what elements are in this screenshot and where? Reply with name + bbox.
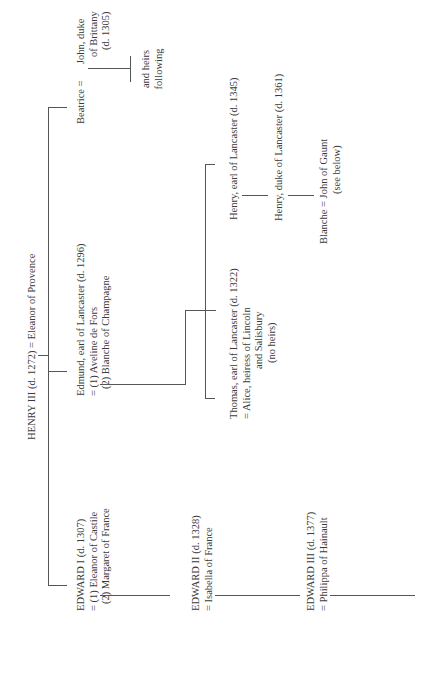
person-edmund: Edmund, earl of Lancaster (d. 1296) = (1… — [75, 244, 113, 397]
person-edward-ii: EDWARD II (d. 1328) = Isabella of France — [190, 515, 215, 611]
thomas-spouse-line-1: = Alice, heiress of Lincoln — [241, 268, 254, 419]
john-brittany-line-3: (d. 1305) — [100, 11, 113, 64]
edmund-descent-line — [100, 384, 185, 385]
blanche-note: (see below) — [331, 139, 344, 244]
henry-duke-name: Henry, duke of Lancaster (d. 1361) — [273, 74, 286, 221]
john-brittany-line-2: of Brittany — [88, 11, 101, 64]
drop-thomas — [205, 398, 215, 399]
beatrice-heirs-note: and heirs following — [140, 39, 165, 99]
person-beatrice: Beatrice = — [75, 80, 88, 124]
edward-i-name: EDWARD I (d. 1307) — [75, 508, 88, 611]
thomas-spouse-line-2: and Salisbury — [253, 268, 266, 419]
edward-ii-spouse: = Isabella of France — [203, 515, 216, 611]
person-blanche: Blanche = John of Gaunt (see below) — [318, 139, 343, 244]
thomas-spouse-line-3: (no heirs) — [266, 268, 279, 419]
person-john-duke-of-brittany: John, duke of Brittany (d. 1305) — [75, 11, 113, 64]
edmund-to-children-line — [185, 311, 186, 385]
edmund-name: Edmund, earl of Lancaster (d. 1296) — [75, 244, 88, 397]
edward-i-descent-line — [100, 595, 170, 596]
thomas-henry-sibling-bar — [205, 164, 206, 399]
henry-duke-descent-line — [288, 195, 314, 196]
drop-henry-earl — [205, 164, 215, 165]
root-henry-iii: HENRY III (d. 1272) = Eleanor of Provenc… — [26, 254, 39, 440]
root-drop-line — [38, 355, 48, 356]
henry-earl-name: Henry, earl of Lancaster (d. 1345) — [228, 78, 241, 220]
children-sibling-bar — [48, 107, 49, 586]
edmund-spouse-2: (2) Blanche of Champagne — [100, 244, 113, 397]
edward-iii-descent-line — [330, 595, 415, 596]
drop-beatrice — [48, 107, 67, 108]
edward-ii-descent-line — [215, 595, 300, 596]
person-thomas: Thomas, earl of Lancaster (d. 1322) = Al… — [228, 268, 278, 419]
heirs-line-2: following — [153, 39, 166, 99]
edward-ii-name: EDWARD II (d. 1328) — [190, 515, 203, 611]
root-spouse: = Eleanor of Provence — [26, 254, 37, 348]
edward-i-spouse-1: = (1) Eleanor of Castile — [88, 508, 101, 611]
henry-earl-descent-line — [242, 195, 268, 196]
beatrice-marriage-sign: = — [75, 80, 86, 86]
edmund-children-stem — [185, 310, 216, 311]
john-brittany-line-1: John, duke — [75, 11, 88, 64]
person-henry-earl: Henry, earl of Lancaster (d. 1345) — [228, 78, 241, 220]
person-edward-iii: EDWARD III (d. 1377) = Philippa of Haina… — [305, 512, 330, 611]
drop-edward-i — [48, 585, 67, 586]
beatrice-name: Beatrice — [75, 89, 86, 124]
edmund-spouse-1: = (1) Aveline de Fors — [88, 244, 101, 397]
edward-iii-name: EDWARD III (d. 1377) — [305, 512, 318, 611]
drop-edmund — [48, 371, 67, 372]
edward-iii-spouse: = Philippa of Hainault — [318, 512, 331, 611]
heirs-line-1: and heirs — [140, 39, 153, 99]
root-name: HENRY III (d. 1272) — [26, 351, 37, 440]
genealogy-tree: HENRY III (d. 1272) = Eleanor of Provenc… — [0, 0, 444, 679]
blanche-name: Blanche = John of Gaunt — [318, 139, 331, 244]
thomas-name: Thomas, earl of Lancaster (d. 1322) — [228, 268, 241, 419]
beatrice-heirs-line — [130, 56, 131, 82]
person-henry-duke: Henry, duke of Lancaster (d. 1361) — [273, 74, 286, 221]
beatrice-descent-line — [88, 68, 130, 69]
